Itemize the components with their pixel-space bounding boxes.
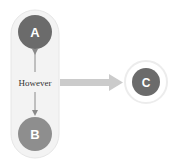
thick-arrow-to-c [60,74,123,91]
node-a-label: A [30,25,40,40]
edge-label-however: However [19,78,52,88]
diagram-canvas: A B C However [0,0,172,165]
node-c[interactable]: C [125,61,167,103]
node-a[interactable]: A [18,15,52,49]
node-c-label: C [142,76,151,90]
node-b-label: B [30,127,39,142]
node-b[interactable]: B [18,117,52,151]
